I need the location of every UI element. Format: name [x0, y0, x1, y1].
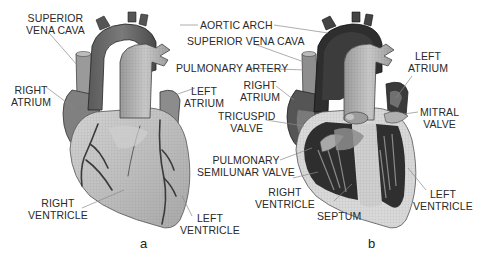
- label-left-ventricle-b: LEFT VENTRICLE: [413, 188, 473, 212]
- label-pulmonary-semilunar-valve: PULMONARY SEMILUNAR VALVE: [197, 154, 295, 178]
- label-right-atrium-a: RIGHT ATRIUM: [11, 84, 51, 108]
- label-mitral-valve: MITRAL VALVE: [420, 106, 459, 130]
- label-superior-vena-cava-a: SUPERIOR VENA CAVA: [26, 12, 85, 36]
- label-left-atrium-b: LEFT ATRIUM: [408, 50, 448, 74]
- label-right-ventricle-b: RIGHT VENTRICLE: [255, 186, 315, 210]
- label-right-ventricle-a: RIGHT VENTRICLE: [28, 197, 88, 221]
- label-left-ventricle-a: LEFT VENTRICLE: [180, 212, 240, 236]
- label-superior-vena-cava-b: SUPERIOR VENA CAVA: [187, 35, 305, 47]
- heart-exterior: [63, 12, 190, 228]
- label-left-atrium-a: LEFT ATRIUM: [184, 85, 224, 109]
- label-pulmonary-artery: PULMONARY ARTERY: [176, 62, 288, 74]
- panel-letter-b: b: [368, 236, 375, 251]
- panel-letter-a: a: [140, 236, 147, 251]
- label-tricuspid-valve: TRICUSPID VALVE: [218, 110, 276, 134]
- label-aortic-arch: AORTIC ARCH: [200, 19, 273, 31]
- label-septum: SEPTUM: [317, 210, 361, 222]
- label-right-atrium-b: RIGHT ATRIUM: [240, 79, 280, 103]
